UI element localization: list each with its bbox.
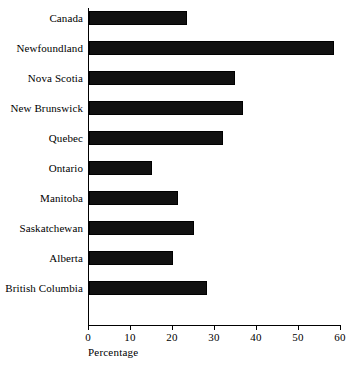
bar-category-label: Alberta [0,251,83,265]
bar-category-label: Canada [0,11,83,25]
bar [89,131,223,145]
bar-row: Quebec [0,131,355,161]
bar-row: Nova Scotia [0,71,355,101]
value-axis-tick-label: 60 [320,331,355,344]
x-axis-title: Percentage [88,346,138,359]
bar-category-label: Newfoundland [0,41,83,55]
bar-category-label: Ontario [0,161,83,175]
bar-category-label: Manitoba [0,191,83,205]
bar-category-label: Saskatchewan [0,221,83,235]
plot-area: 0102030405060 CanadaNewfoundlandNova Sco… [0,0,355,369]
value-axis-tick [130,325,131,330]
bar [89,281,207,295]
bar [89,161,152,175]
value-axis-tick [172,325,173,330]
bar-row: Newfoundland [0,41,355,71]
bar [89,191,178,205]
bar-row: New Brunswick [0,101,355,131]
value-axis-tick-label: 30 [194,331,234,344]
value-axis-tick [214,325,215,330]
bar [89,101,243,115]
bar [89,71,235,85]
bar [89,221,194,235]
bar [89,251,173,265]
value-axis-tick-label: 0 [68,331,108,344]
value-axis-tick [340,325,341,330]
value-axis-tick-label: 50 [278,331,318,344]
bar-row: Manitoba [0,191,355,221]
bar-row: Saskatchewan [0,221,355,251]
value-axis-tick [256,325,257,330]
bar-row: Ontario [0,161,355,191]
value-axis-tick-label: 40 [236,331,276,344]
bar-chart-figure: 0102030405060 CanadaNewfoundlandNova Sco… [0,0,355,369]
bar-row: Canada [0,11,355,41]
value-axis-tick-label: 10 [110,331,150,344]
bar-category-label: British Columbia [0,281,83,295]
bar-category-label: New Brunswick [0,101,83,115]
value-axis-tick [298,325,299,330]
bar-category-label: Nova Scotia [0,71,83,85]
bar [89,11,187,25]
value-axis-tick-label: 20 [152,331,192,344]
bar [89,41,334,55]
bar-row: British Columbia [0,281,355,311]
bar-row: Alberta [0,251,355,281]
bar-category-label: Quebec [0,131,83,145]
value-axis-tick [88,325,89,330]
